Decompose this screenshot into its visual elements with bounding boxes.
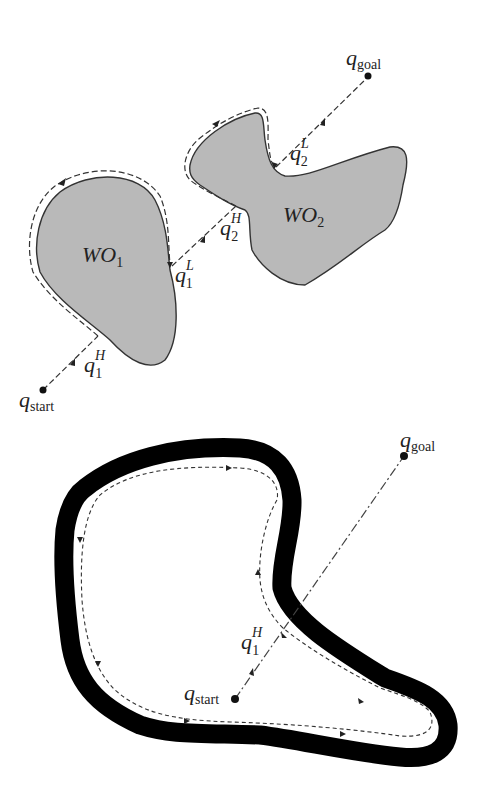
label-q-goal: qgoal [346, 45, 381, 72]
top-panel: qgoal qstart qH1 qL1 qH2 qL2 WO1 WO2 [19, 45, 407, 414]
label-q1-L: qL1 [175, 258, 194, 291]
label-q2-H: qH2 [220, 211, 242, 244]
arrow-icon [281, 632, 287, 638]
arrow-icon [95, 661, 101, 667]
label-q-start: qstart [184, 680, 219, 707]
label-q-start: qstart [19, 387, 54, 414]
goal-point [400, 452, 408, 460]
arrow-icon [340, 731, 346, 737]
label-q1-H: qH1 [241, 625, 263, 658]
bug-algorithm-diagram: qgoal qstart qH1 qL1 qH2 qL2 WO1 WO2 [0, 0, 490, 809]
arrow-icon [358, 698, 364, 704]
label-q1-H: qH1 [84, 348, 106, 381]
bottom-panel: qgoal qstart qH1 [64, 427, 448, 758]
start-point [40, 387, 47, 394]
label-q2-L: qL2 [290, 136, 309, 169]
start-point [231, 695, 239, 703]
obstacle-wo1 [37, 177, 177, 365]
obstacle-wo2 [190, 113, 407, 285]
arrow-icon [320, 118, 325, 126]
boundary-path [81, 467, 432, 736]
goal-point [365, 73, 372, 80]
label-q-goal: qgoal [400, 427, 435, 454]
arrow-icon [249, 668, 254, 676]
obstacle-ring [64, 448, 448, 758]
arrow-icon [58, 178, 66, 186]
arrow-icon [226, 465, 232, 471]
arrow-icon [212, 120, 220, 127]
arrow-icon [77, 537, 83, 543]
